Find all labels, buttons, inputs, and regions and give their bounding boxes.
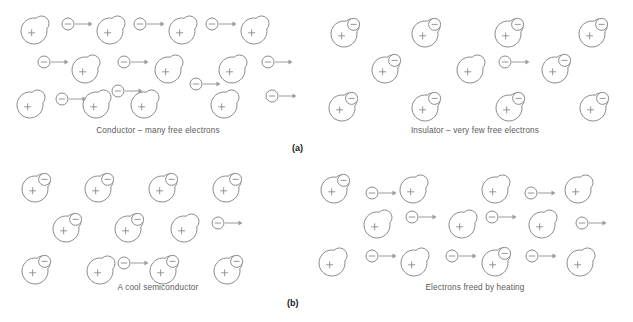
- atom: [449, 210, 477, 238]
- atom: [211, 90, 239, 118]
- atom: [17, 90, 45, 118]
- free-electron: [576, 217, 607, 229]
- particle-stage: [317, 0, 633, 160]
- free-electron: [486, 211, 517, 223]
- atom: [21, 16, 49, 44]
- atom-core-outline: [457, 55, 485, 83]
- atom-core-outline: [565, 175, 593, 203]
- atom: [482, 247, 511, 276]
- atom: [131, 90, 159, 118]
- motion-arrow-head-icon: [393, 191, 397, 196]
- free-electron: [56, 93, 87, 105]
- free-electron: [112, 85, 143, 97]
- atom-core-outline: [72, 55, 100, 83]
- atom: [219, 55, 247, 83]
- free-electron: [118, 56, 149, 68]
- panel-label: (b): [287, 298, 299, 308]
- free-electron: [190, 78, 221, 90]
- atom-core-outline: [97, 16, 125, 44]
- particle-stage: [0, 0, 316, 160]
- atom: [364, 210, 392, 238]
- atom-core-outline: [401, 248, 429, 276]
- atom: [53, 213, 82, 242]
- free-electron: [526, 250, 557, 262]
- semiconductor-figure: Conductor – many free electronsInsulator…: [0, 0, 633, 322]
- atom-core-outline: [241, 16, 269, 44]
- atom: [400, 175, 428, 203]
- atom: [372, 54, 401, 83]
- atom-core-outline: [529, 210, 557, 238]
- free-electron: [406, 211, 437, 223]
- motion-arrow-head-icon: [433, 215, 437, 220]
- atom: [580, 92, 609, 121]
- particle-stage: [317, 161, 633, 322]
- atom: [321, 174, 350, 203]
- motion-arrow-head-icon: [217, 82, 221, 87]
- heated-semiconductor-panel: Electrons freed by heating: [317, 161, 633, 322]
- atom: [565, 175, 593, 203]
- panel-caption: Electrons freed by heating: [317, 283, 633, 292]
- atom-core-outline: [482, 175, 510, 203]
- atom: [83, 90, 111, 118]
- atom: [331, 18, 360, 47]
- atom-core-outline: [364, 210, 392, 238]
- insulator-panel: Insulator – very few free electrons: [317, 0, 633, 160]
- free-electron: [262, 56, 293, 68]
- atom-core-outline: [449, 210, 477, 238]
- atom: [155, 55, 183, 83]
- atom: [529, 210, 557, 238]
- free-electron: [266, 90, 297, 102]
- motion-arrow-head-icon: [473, 254, 477, 259]
- atom-core-outline: [319, 248, 347, 276]
- free-electron: [366, 250, 397, 262]
- motion-arrow-head-icon: [233, 22, 237, 27]
- atom-core-outline: [171, 214, 199, 242]
- atom: [22, 255, 51, 284]
- motion-arrow-head-icon: [89, 22, 93, 27]
- atom: [85, 173, 114, 202]
- atom: [329, 92, 358, 121]
- atom: [150, 255, 179, 284]
- atom: [214, 255, 243, 284]
- motion-arrow-head-icon: [161, 22, 165, 27]
- panel-caption: Conductor – many free electrons: [0, 126, 316, 135]
- atom: [22, 173, 51, 202]
- atom: [213, 173, 242, 202]
- atom-core-outline: [21, 16, 49, 44]
- panel-label: (a): [292, 143, 303, 153]
- motion-arrow-head-icon: [289, 60, 293, 65]
- atom: [169, 16, 197, 44]
- atom: [72, 55, 100, 83]
- atom-core-outline: [211, 90, 239, 118]
- free-electron: [62, 18, 93, 30]
- motion-arrow-head-icon: [239, 221, 243, 226]
- atom: [412, 18, 441, 47]
- motion-arrow-head-icon: [553, 254, 557, 259]
- free-electron: [134, 18, 165, 30]
- atom: [87, 256, 115, 284]
- atom-core-outline: [400, 175, 428, 203]
- atom-core-outline: [131, 90, 159, 118]
- atom-core-outline: [155, 55, 183, 83]
- atom-core-outline: [83, 90, 111, 118]
- atom: [171, 214, 199, 242]
- atom: [482, 175, 510, 203]
- atom: [542, 54, 571, 83]
- particle-stage: [0, 161, 316, 322]
- motion-arrow-head-icon: [65, 60, 69, 65]
- free-electron: [525, 187, 556, 199]
- atom: [115, 213, 144, 242]
- motion-arrow-head-icon: [393, 254, 397, 259]
- atom: [97, 16, 125, 44]
- free-electron: [446, 250, 477, 262]
- motion-arrow-head-icon: [552, 191, 556, 196]
- atom-core-outline: [567, 248, 595, 276]
- cool-semiconductor-panel: A cool semiconductor: [0, 161, 316, 322]
- conductor-panel: Conductor – many free electrons: [0, 0, 316, 160]
- motion-arrow-head-icon: [603, 221, 607, 226]
- motion-arrow-head-icon: [526, 60, 530, 65]
- atom: [457, 55, 485, 83]
- free-electron: [499, 56, 530, 68]
- free-electron: [366, 187, 397, 199]
- atom: [149, 173, 178, 202]
